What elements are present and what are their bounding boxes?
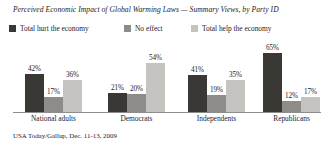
- legend-item-no-effect: No effect: [124, 22, 163, 34]
- chart-title: Perceived Economic Impact of Global Warm…: [13, 5, 329, 15]
- bar-group-bars: 21%20%54%: [108, 38, 165, 112]
- bar-item[interactable]: 20%: [127, 38, 146, 112]
- bar[interactable]: [301, 97, 320, 112]
- legend-label: Total hurt the economy: [20, 24, 89, 33]
- bar-value-label: 35%: [223, 71, 249, 79]
- bar-group-bars: 41%19%35%: [188, 38, 245, 112]
- bar-item[interactable]: 65%: [263, 38, 282, 112]
- legend-swatch-icon: [9, 25, 16, 32]
- plot-area: 42%17%36%21%20%54%41%19%35%65%12%17%: [0, 38, 334, 113]
- bar[interactable]: [207, 95, 226, 112]
- legend-label: Total help the economy: [202, 24, 271, 33]
- bar-item[interactable]: 54%: [146, 38, 165, 112]
- bar[interactable]: [127, 94, 146, 112]
- category-label: Republicans: [243, 114, 334, 124]
- legend-swatch-icon: [191, 25, 198, 32]
- legend-item-total-help-the-economy: Total help the economy: [191, 22, 271, 34]
- bar-item[interactable]: 36%: [63, 38, 82, 112]
- bar-item[interactable]: 12%: [282, 38, 301, 112]
- source-note: USA Today/Gallup, Dec. 11-13, 2009: [13, 131, 117, 140]
- bar[interactable]: [44, 97, 63, 112]
- bar-item[interactable]: 42%: [25, 38, 44, 112]
- bar-item[interactable]: 41%: [188, 38, 207, 112]
- bar[interactable]: [63, 80, 82, 112]
- bar[interactable]: [282, 101, 301, 112]
- bar[interactable]: [263, 53, 282, 112]
- legend-item-total-hurt-the-economy: Total hurt the economy: [9, 22, 89, 34]
- bar-value-label: 17%: [298, 88, 324, 96]
- bar[interactable]: [146, 63, 165, 112]
- bar-item[interactable]: 35%: [226, 38, 245, 112]
- category-axis-labels: National adultsDemocratsIndependentsRepu…: [0, 114, 334, 126]
- bar-value-label: 36%: [60, 71, 86, 79]
- bar-value-label: 54%: [143, 54, 169, 62]
- chart-legend: Total hurt the economy No effect Total h…: [9, 22, 329, 34]
- legend-label: No effect: [135, 24, 163, 33]
- x-axis-line: [13, 112, 321, 113]
- bar[interactable]: [226, 80, 245, 112]
- bar-item[interactable]: 21%: [108, 38, 127, 112]
- chart-container: Perceived Economic Impact of Global Warm…: [0, 0, 334, 145]
- bar[interactable]: [108, 93, 127, 112]
- legend-swatch-icon: [124, 25, 131, 32]
- bar-group-bars: 65%12%17%: [263, 38, 320, 112]
- bar-group-bars: 42%17%36%: [25, 38, 82, 112]
- bar-item[interactable]: 17%: [301, 38, 320, 112]
